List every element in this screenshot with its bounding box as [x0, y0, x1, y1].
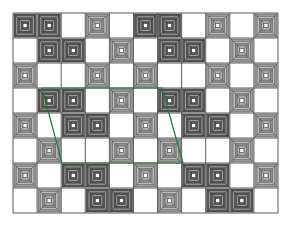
light-tile: [110, 139, 132, 162]
light-tile: [86, 64, 108, 87]
dark-tile: [134, 14, 156, 37]
dark-tile: [38, 39, 60, 62]
dark-tile: [62, 164, 84, 187]
light-tile: [255, 64, 277, 87]
dark-tile: [207, 189, 229, 212]
dark-tile: [86, 189, 108, 212]
light-tile: [134, 164, 156, 187]
light-tile: [134, 64, 156, 87]
light-tile: [86, 14, 108, 37]
light-tile: [231, 39, 253, 62]
tiling-diagram: [0, 0, 290, 228]
dark-tile: [207, 164, 229, 187]
dark-tile: [62, 39, 84, 62]
dark-tile: [86, 164, 108, 187]
light-tile: [159, 189, 181, 212]
light-tile: [255, 164, 277, 187]
dark-tile: [38, 89, 60, 112]
dark-tile: [14, 14, 36, 37]
light-tile: [38, 189, 60, 212]
dark-tile: [159, 14, 181, 37]
dark-tile: [159, 89, 181, 112]
dark-tile: [183, 114, 205, 137]
light-tile: [207, 14, 229, 37]
dark-tile: [62, 89, 84, 112]
light-tile: [231, 139, 253, 162]
light-tile: [207, 64, 229, 87]
dark-tile: [231, 189, 253, 212]
dark-tile: [183, 164, 205, 187]
light-tile: [255, 114, 277, 137]
dark-tile: [86, 114, 108, 137]
dark-tile: [183, 89, 205, 112]
light-tile: [134, 114, 156, 137]
dark-tile: [207, 114, 229, 137]
dark-tile: [38, 14, 60, 37]
dark-tile: [183, 39, 205, 62]
light-tile: [14, 64, 36, 87]
light-tile: [110, 39, 132, 62]
light-tile: [14, 114, 36, 137]
dark-tile: [110, 189, 132, 212]
light-tile: [231, 89, 253, 112]
light-tile: [110, 89, 132, 112]
dark-tile: [159, 39, 181, 62]
dark-tile: [62, 114, 84, 137]
light-tile: [255, 14, 277, 37]
light-tile: [14, 164, 36, 187]
